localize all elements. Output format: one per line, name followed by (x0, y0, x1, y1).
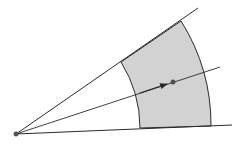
marked-point (171, 80, 175, 84)
sector-diagram (0, 0, 244, 149)
lower-ray (16, 125, 232, 134)
origin-point (14, 132, 18, 136)
